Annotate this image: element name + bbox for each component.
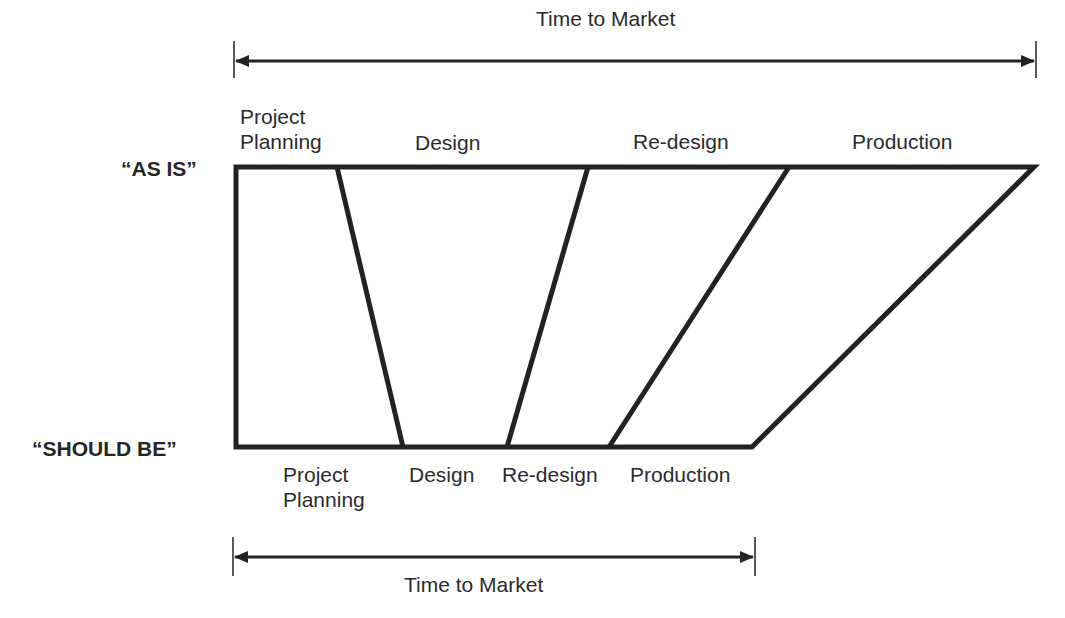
phase-shape — [236, 167, 1034, 447]
divider-design-redesign — [507, 167, 588, 447]
as-is-phase-project-planning: Project Planning — [240, 104, 322, 154]
divider-planning-design — [337, 167, 403, 447]
should-be-phase-redesign: Re-design — [502, 462, 598, 487]
bottom-time-arrow — [233, 537, 755, 576]
as-is-phase-production: Production — [852, 129, 952, 154]
should-be-phase-project-planning: Project Planning — [283, 462, 365, 512]
as-is-label: “AS IS” — [121, 157, 197, 181]
top-time-to-market-label: Time to Market — [536, 6, 675, 31]
time-to-market-diagram — [0, 0, 1065, 618]
should-be-phase-design: Design — [409, 462, 474, 487]
should-be-phase-production: Production — [630, 462, 730, 487]
top-time-arrow — [234, 41, 1036, 78]
as-is-phase-redesign: Re-design — [633, 129, 729, 154]
should-be-label: “SHOULD BE” — [32, 437, 177, 461]
as-is-phase-design: Design — [415, 130, 480, 155]
divider-redesign-production — [609, 167, 789, 447]
bottom-time-to-market-label: Time to Market — [404, 572, 543, 597]
